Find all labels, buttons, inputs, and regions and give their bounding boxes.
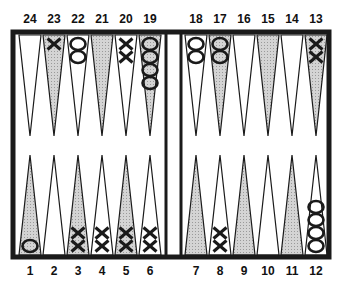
checkers-layer	[23, 38, 324, 252]
point-23[interactable]	[43, 35, 65, 136]
point-24[interactable]	[19, 35, 41, 136]
top-point-number-14: 14	[280, 12, 304, 26]
top-point-number-17: 17	[208, 12, 232, 26]
bottom-point-number-3: 3	[66, 264, 90, 278]
bottom-point-number-2: 2	[42, 264, 66, 278]
top-point-number-22: 22	[66, 12, 90, 26]
bottom-point-number-5: 5	[114, 264, 138, 278]
point-7[interactable]	[185, 155, 207, 255]
point-8[interactable]	[209, 155, 231, 255]
top-point-number-13: 13	[304, 12, 328, 26]
top-point-number-20: 20	[114, 12, 138, 26]
top-point-number-21: 21	[90, 12, 114, 26]
bottom-point-number-7: 7	[184, 264, 208, 278]
bottom-point-number-8: 8	[208, 264, 232, 278]
backgammon-board	[0, 0, 340, 288]
points-layer	[19, 35, 327, 255]
bottom-point-number-10: 10	[256, 264, 280, 278]
point-2[interactable]	[43, 155, 65, 255]
point-11[interactable]	[281, 155, 303, 255]
top-point-number-18: 18	[184, 12, 208, 26]
point-4[interactable]	[91, 155, 113, 255]
top-point-number-16: 16	[232, 12, 256, 26]
bottom-point-number-1: 1	[18, 264, 42, 278]
bottom-point-number-4: 4	[90, 264, 114, 278]
point-21[interactable]	[91, 35, 113, 136]
point-14[interactable]	[281, 35, 303, 136]
point-15[interactable]	[257, 35, 279, 136]
bottom-point-number-6: 6	[138, 264, 162, 278]
point-5[interactable]	[115, 155, 137, 255]
point-10[interactable]	[257, 155, 279, 255]
point-13[interactable]	[305, 35, 327, 136]
point-9[interactable]	[233, 155, 255, 255]
top-point-number-19: 19	[138, 12, 162, 26]
point-6[interactable]	[139, 155, 161, 255]
top-point-number-24: 24	[18, 12, 42, 26]
top-point-number-23: 23	[42, 12, 66, 26]
point-20[interactable]	[115, 35, 137, 136]
point-3[interactable]	[67, 155, 89, 255]
bottom-point-number-9: 9	[232, 264, 256, 278]
bottom-point-number-12: 12	[304, 264, 328, 278]
point-16[interactable]	[233, 35, 255, 136]
bottom-point-number-11: 11	[280, 264, 304, 278]
top-point-number-15: 15	[256, 12, 280, 26]
